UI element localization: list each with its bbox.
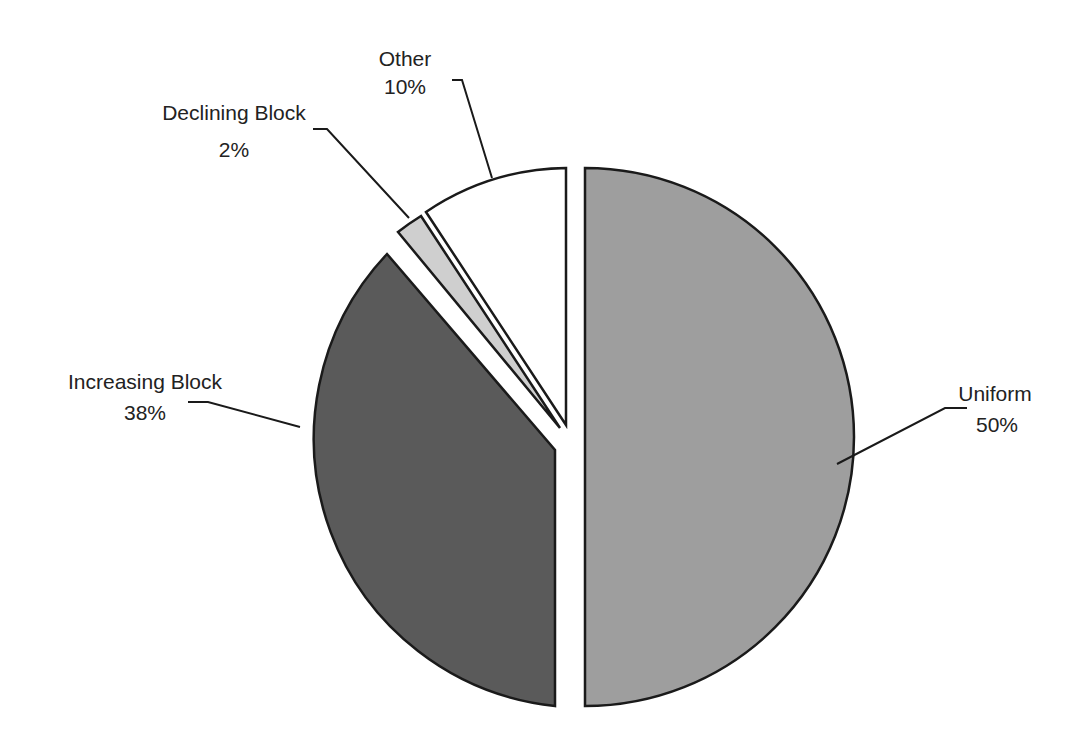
leader-line-declining	[313, 129, 409, 218]
label-declining-name: Declining Block	[162, 101, 306, 124]
leader-line-other	[452, 80, 492, 178]
pie-chart: Other 10% Declining Block 2% Increasing …	[0, 0, 1081, 738]
slice-uniform	[585, 168, 854, 706]
label-increasing-pct: 38%	[124, 401, 166, 424]
label-uniform-name: Uniform	[958, 382, 1032, 405]
label-other-pct: 10%	[384, 75, 426, 98]
label-other-name: Other	[379, 47, 432, 70]
leader-line-increasing	[188, 402, 300, 427]
label-increasing-name: Increasing Block	[68, 370, 223, 393]
label-uniform-pct: 50%	[976, 413, 1018, 436]
leader-line-uniform	[837, 408, 967, 464]
label-declining-pct: 2%	[219, 138, 249, 161]
